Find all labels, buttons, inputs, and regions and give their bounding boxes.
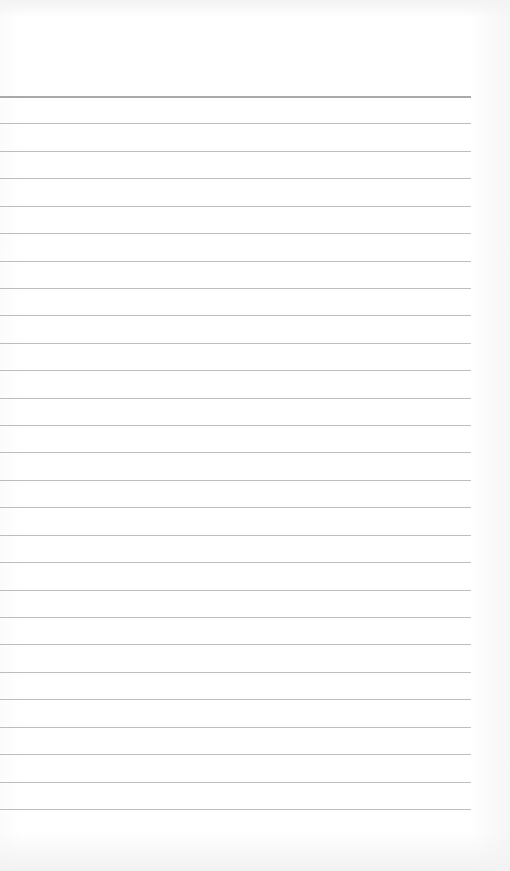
rule-line <box>0 288 471 289</box>
rule-line <box>0 699 471 700</box>
rule-line <box>0 123 471 124</box>
rule-line <box>0 233 471 234</box>
rule-line <box>0 507 471 508</box>
rule-line <box>0 535 471 536</box>
rule-line <box>0 617 471 618</box>
rule-line <box>0 178 471 179</box>
rule-line <box>0 644 471 645</box>
rule-line <box>0 782 471 783</box>
rule-line <box>0 452 471 453</box>
rule-line <box>0 151 471 152</box>
rule-line <box>0 590 471 591</box>
header-rule-line <box>0 96 471 98</box>
rule-line <box>0 562 471 563</box>
rule-line <box>0 672 471 673</box>
rule-line <box>0 261 471 262</box>
rule-line <box>0 343 471 344</box>
rule-line <box>0 206 471 207</box>
rule-line <box>0 425 471 426</box>
rule-line <box>0 398 471 399</box>
rule-line <box>0 480 471 481</box>
rule-line <box>0 370 471 371</box>
rule-line <box>0 809 471 810</box>
notebook-page <box>0 0 510 871</box>
rule-line <box>0 754 471 755</box>
rule-line <box>0 727 471 728</box>
rule-line <box>0 315 471 316</box>
